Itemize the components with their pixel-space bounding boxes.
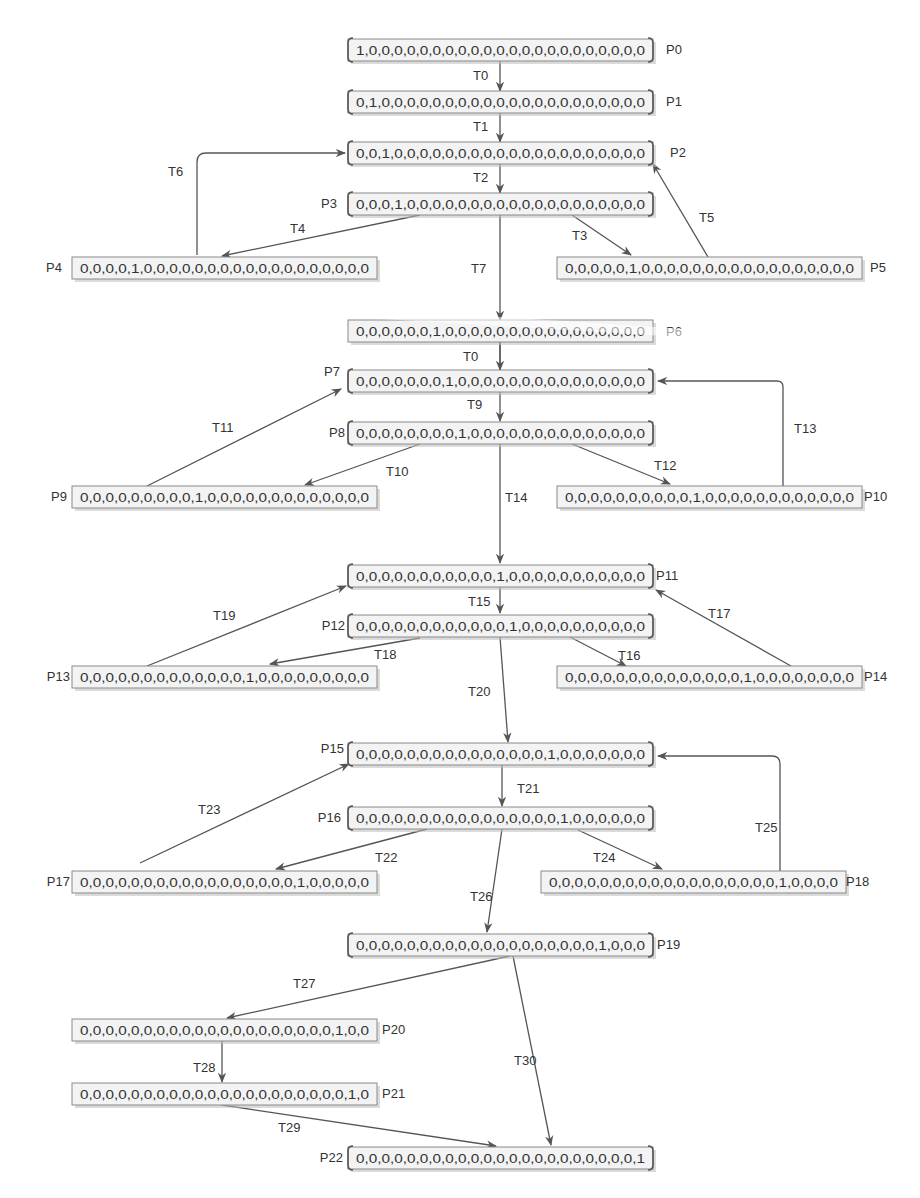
place-node-p12: 0,0,0,0,0,0,0,0,0,0,0,0,1,0,0,0,0,0,0,0,…: [322, 614, 656, 640]
marking-vector: 0,0,0,0,0,0,0,0,0,0,0,0,0,0,0,0,0,0,0,1,…: [356, 939, 645, 953]
place-label: P10: [864, 489, 887, 504]
place-label: P9: [51, 489, 67, 504]
place-node-p11: 0,0,0,0,0,0,0,0,0,0,0,1,0,0,0,0,0,0,0,0,…: [348, 564, 678, 590]
reachability-graph: 1,0,0,0,0,0,0,0,0,0,0,0,0,0,0,0,0,0,0,0,…: [0, 0, 920, 1198]
edges-layer: [140, 61, 791, 1146]
place-label: P17: [47, 874, 70, 889]
marking-vector: 0,0,0,0,0,0,0,0,0,0,0,0,0,1,0,0,0,0,0,0,…: [80, 671, 369, 685]
place-node-p19: 0,0,0,0,0,0,0,0,0,0,0,0,0,0,0,0,0,0,0,1,…: [348, 933, 680, 959]
transition-arrow-t25: [658, 756, 780, 871]
place-node-p4: 0,0,0,0,1,0,0,0,0,0,0,0,0,0,0,0,0,0,0,0,…: [46, 257, 380, 282]
place-label: P22: [320, 1150, 343, 1165]
place-node-p22: 0,0,0,0,0,0,0,0,0,0,0,0,0,0,0,0,0,0,0,0,…: [320, 1146, 656, 1172]
place-node-p14: 0,0,0,0,0,0,0,0,0,0,0,0,0,0,1,0,0,0,0,0,…: [557, 666, 887, 691]
transition-label: T30: [514, 1053, 536, 1068]
place-label: P5: [870, 260, 886, 275]
marking-vector: 0,0,0,0,0,0,0,0,1,0,0,0,0,0,0,0,0,0,0,0,…: [356, 427, 645, 441]
transition-label: T1: [473, 119, 488, 134]
marking-vector: 1,0,0,0,0,0,0,0,0,0,0,0,0,0,0,0,0,0,0,0,…: [356, 44, 645, 58]
place-node-p1: 0,1,0,0,0,0,0,0,0,0,0,0,0,0,0,0,0,0,0,0,…: [348, 90, 682, 116]
transition-arrow-t29: [222, 1105, 496, 1146]
place-node-p7: 0,0,0,0,0,0,0,1,0,0,0,0,0,0,0,0,0,0,0,0,…: [324, 364, 656, 395]
transition-label: T28: [193, 1060, 215, 1075]
place-label: P15: [321, 741, 344, 756]
place-label: P3: [321, 196, 337, 211]
place-node-p8: 0,0,0,0,0,0,0,0,1,0,0,0,0,0,0,0,0,0,0,0,…: [329, 421, 656, 447]
transition-labels-layer: T0T1T2T3T4T5T6T7T0T9T10T11T12T13T14T15T1…: [168, 68, 816, 1135]
transition-arrow-t4: [222, 215, 420, 256]
marking-vector: 0,0,0,0,0,0,0,0,0,0,0,0,0,0,0,0,0,0,0,0,…: [80, 1024, 369, 1038]
place-node-p2: 0,0,1,0,0,0,0,0,0,0,0,0,0,0,0,0,0,0,0,0,…: [348, 141, 686, 167]
marking-vector: 0,0,0,0,0,0,0,0,0,0,0,0,0,0,0,0,0,0,1,0,…: [549, 876, 838, 890]
transition-arrow-t30: [513, 956, 551, 1145]
place-node-p18: 0,0,0,0,0,0,0,0,0,0,0,0,0,0,0,0,0,0,1,0,…: [541, 871, 869, 896]
marking-vector: 0,0,0,0,0,0,0,0,0,0,0,1,0,0,0,0,0,0,0,0,…: [356, 570, 645, 584]
transition-label: T4: [290, 221, 305, 236]
transition-label: T5: [699, 210, 714, 225]
marking-vector: 0,0,0,0,0,0,0,0,0,0,0,0,0,0,0,0,0,0,0,0,…: [80, 1088, 369, 1102]
transition-label: T2: [473, 170, 488, 185]
place-label: P14: [864, 669, 887, 684]
marking-vector: 0,0,1,0,0,0,0,0,0,0,0,0,0,0,0,0,0,0,0,0,…: [356, 147, 645, 161]
transition-label: T17: [708, 606, 730, 621]
transition-label: T21: [517, 781, 539, 796]
marking-vector: 0,0,0,0,0,0,0,1,0,0,0,0,0,0,0,0,0,0,0,0,…: [356, 375, 645, 389]
place-label: P19: [657, 937, 680, 952]
transition-label: T0: [473, 68, 488, 83]
transition-label: T27: [293, 976, 315, 991]
place-node-p3: 0,0,0,1,0,0,0,0,0,0,0,0,0,0,0,0,0,0,0,0,…: [321, 192, 656, 218]
marking-vector: 0,0,0,0,1,0,0,0,0,0,0,0,0,0,0,0,0,0,0,0,…: [80, 262, 369, 276]
transition-arrow-t22: [276, 829, 427, 869]
place-node-p0: 1,0,0,0,0,0,0,0,0,0,0,0,0,0,0,0,0,0,0,0,…: [348, 38, 682, 64]
place-label: P21: [382, 1086, 405, 1101]
transition-label: T26: [470, 889, 492, 904]
transition-label: T15: [468, 594, 490, 609]
place-label: P7: [324, 364, 340, 379]
place-node-p13: 0,0,0,0,0,0,0,0,0,0,0,0,0,1,0,0,0,0,0,0,…: [47, 666, 380, 691]
transition-label: T10: [386, 464, 408, 479]
marking-vector: 0,0,0,0,0,0,0,0,0,0,0,0,0,0,0,0,0,1,0,0,…: [80, 876, 369, 890]
transition-label: T11: [212, 420, 233, 435]
transition-arrow-t27: [227, 956, 510, 1018]
transition-arrow-t24: [578, 830, 662, 869]
marking-vector: 0,0,0,0,0,0,0,0,0,0,0,0,0,0,1,0,0,0,0,0,…: [565, 671, 854, 685]
marking-vector: 0,0,0,0,0,0,0,0,0,0,0,0,0,0,0,1,0,0,0,0,…: [356, 748, 645, 762]
place-node-p10: 0,0,0,0,0,0,0,0,0,0,1,0,0,0,0,0,0,0,0,0,…: [557, 486, 887, 511]
marking-vector: 0,0,0,1,0,0,0,0,0,0,0,0,0,0,0,0,0,0,0,0,…: [356, 198, 645, 212]
transition-arrow-t26: [487, 829, 502, 932]
place-label: P0: [666, 42, 682, 57]
marking-vector: 0,0,0,0,0,0,0,0,0,0,0,0,0,0,0,0,0,0,0,0,…: [356, 1152, 645, 1166]
transition-label: T7: [471, 261, 486, 276]
transition-arrow-t19: [147, 586, 346, 666]
place-label: P1: [666, 94, 682, 109]
transition-label: T29: [278, 1120, 300, 1135]
transition-arrow-t13: [658, 381, 783, 486]
place-label: P4: [46, 260, 62, 275]
place-label: P16: [318, 810, 341, 825]
transition-label: T12: [654, 458, 676, 473]
marking-vector: 0,0,0,0,0,0,0,0,0,0,1,0,0,0,0,0,0,0,0,0,…: [565, 491, 854, 505]
place-label: P18: [846, 874, 869, 889]
transition-label: T6: [168, 164, 183, 179]
transition-label: T23: [198, 802, 220, 817]
place-node-p16: 0,0,0,0,0,0,0,0,0,0,0,0,0,0,0,0,1,0,0,0,…: [318, 806, 656, 832]
transition-label: T22: [375, 850, 397, 865]
transition-arrow-t17: [656, 590, 791, 666]
place-node-p21: 0,0,0,0,0,0,0,0,0,0,0,0,0,0,0,0,0,0,0,0,…: [72, 1083, 405, 1108]
transition-label: T19: [213, 608, 235, 623]
transition-label: T9: [467, 397, 482, 412]
place-node-p9: 0,0,0,0,0,0,0,0,0,1,0,0,0,0,0,0,0,0,0,0,…: [51, 486, 380, 511]
transition-label: T16: [618, 648, 640, 663]
marking-vector: 0,0,0,0,0,1,0,0,0,0,0,0,0,0,0,0,0,0,0,0,…: [565, 262, 854, 276]
marking-vector: 0,0,0,0,0,0,0,0,0,1,0,0,0,0,0,0,0,0,0,0,…: [80, 491, 369, 505]
place-label: P8: [329, 425, 345, 440]
marking-vector: 0,1,0,0,0,0,0,0,0,0,0,0,0,0,0,0,0,0,0,0,…: [356, 96, 645, 110]
transition-arrow-t11: [147, 389, 341, 486]
transition-label: T3: [572, 228, 587, 243]
transition-label: T0: [463, 349, 478, 364]
place-label: P2: [670, 145, 686, 160]
transition-label: T24: [593, 850, 615, 865]
place-node-p5: 0,0,0,0,0,1,0,0,0,0,0,0,0,0,0,0,0,0,0,0,…: [557, 257, 886, 282]
transition-label: T18: [374, 647, 396, 662]
transition-label: T13: [794, 421, 816, 436]
